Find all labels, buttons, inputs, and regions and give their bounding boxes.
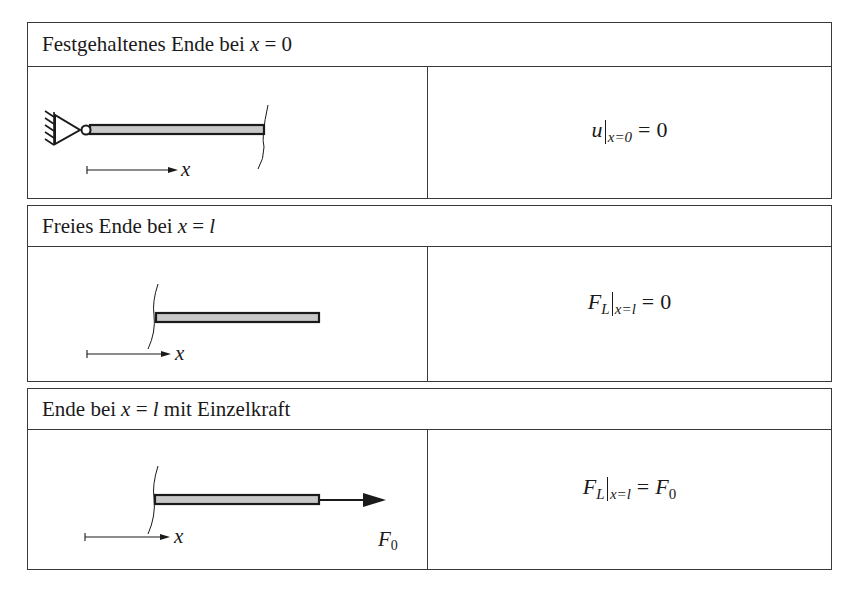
boundary-condition-formula: FLx=l=F0 (428, 474, 831, 503)
header-math-var: x (178, 216, 187, 237)
panel-body: x FLx=l=0 (28, 247, 831, 381)
formula-rhs-sub: 0 (669, 486, 677, 502)
formula-symbol-sub: L (601, 301, 609, 317)
header-text: Freies Ende bei (42, 216, 173, 237)
evaluation-bar (607, 477, 608, 501)
fixed-end-diagram: x (28, 67, 428, 199)
x-axis-arrow-icon (87, 350, 171, 358)
evaluation-bar (612, 292, 613, 316)
formula-rhs: 0 (660, 289, 671, 314)
header-math-rel: = (259, 34, 281, 55)
x-axis-arrow-icon (87, 166, 178, 174)
diagram-cell: x (28, 67, 428, 198)
axis-label: x (174, 341, 185, 365)
formula-symbol: F (588, 289, 601, 314)
diagram-cell: x F0 (28, 430, 428, 569)
panel-header: Festgehaltenes Ende bei x = 0 (28, 23, 831, 67)
header-math-val: l (209, 216, 215, 237)
formula-cell: ux=0=0 (428, 67, 831, 198)
panel-free-end: Freies Ende bei x = l x FLx=l=0 (27, 205, 832, 382)
header-math-val: 0 (282, 34, 293, 55)
formula-eval-sub: x=l (610, 486, 631, 502)
rod-icon (155, 495, 319, 504)
formula-cell: FLx=l=0 (428, 247, 831, 381)
end-force-diagram: x F0 (28, 430, 428, 570)
force-label: F0 (377, 527, 398, 553)
header-text: Ende bei (42, 399, 116, 420)
pin-support-icon (55, 115, 80, 144)
rod-icon (90, 125, 264, 134)
formula-symbol: u (592, 117, 603, 142)
hinge-icon (82, 126, 91, 135)
axis-label: x (173, 524, 184, 548)
formula-rhs: F (655, 474, 668, 499)
header-math-var: x (121, 399, 130, 420)
formula-eval-sub: x=l (615, 301, 636, 317)
boundary-condition-formula: ux=0=0 (428, 117, 831, 146)
formula-rhs: 0 (657, 117, 668, 142)
panel-header: Freies Ende bei x = l (28, 206, 831, 247)
panel-body: x ux=0=0 (28, 67, 831, 198)
header-math-rel: = (130, 399, 152, 420)
header-text: Festgehaltenes Ende bei (42, 34, 245, 55)
formula-cell: FLx=l=F0 (428, 430, 831, 569)
force-arrow-icon (319, 493, 386, 507)
evaluation-bar (605, 120, 606, 144)
formula-eq: = (638, 117, 650, 142)
formula-eq: = (637, 474, 649, 499)
axis-label: x (180, 157, 191, 181)
header-math-rel: = (187, 216, 209, 237)
boundary-condition-formula: FLx=l=0 (428, 289, 831, 318)
x-axis-arrow-icon (85, 533, 170, 541)
panel-end-with-force: Ende bei x = l mit Einzelkraft x F0 (27, 388, 832, 570)
free-end-diagram: x (28, 247, 428, 382)
panel-header: Ende bei x = l mit Einzelkraft (28, 389, 831, 430)
formula-symbol: F (583, 474, 596, 499)
ground-hatch-icon (45, 111, 54, 145)
header-math-var: x (250, 34, 259, 55)
diagram-cell: x (28, 247, 428, 381)
cut-line-icon (258, 105, 268, 169)
header-suffix: mit Einzelkraft (159, 399, 291, 420)
formula-symbol-sub: L (596, 486, 604, 502)
panel-body: x F0 FLx=l=F0 (28, 430, 831, 569)
formula-eq: = (642, 289, 654, 314)
rod-icon (156, 313, 319, 322)
formula-eval-sub: x=0 (608, 129, 632, 145)
panel-fixed-end: Festgehaltenes Ende bei x = 0 (27, 22, 832, 199)
